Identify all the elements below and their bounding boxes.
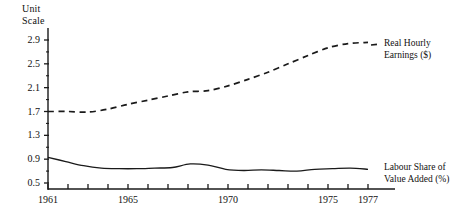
legend-label-labour-share: Labour Share of Value Added (%) — [384, 162, 449, 185]
y-tick-label: 2.1 — [14, 83, 40, 93]
x-tick-label: 1961 — [28, 195, 68, 205]
y-tick-label: 2.9 — [14, 35, 40, 45]
legend-dash-connector — [371, 44, 381, 45]
chart-figure: Unit Scale 0.50.91.31.72.12.52.9 1961196… — [0, 0, 469, 211]
x-axis-ticks — [48, 184, 368, 189]
y-tick-label: 0.5 — [14, 178, 40, 188]
x-tick-label: 1965 — [108, 195, 148, 205]
y-tick-label: 1.7 — [14, 107, 40, 117]
legend-label-real-hourly-earnings: Real Hourly Earnings ($) — [384, 38, 431, 61]
x-tick-label: 1977 — [348, 195, 388, 205]
series-line-labour-share — [48, 157, 368, 171]
y-axis-title: Unit Scale — [22, 3, 45, 27]
y-tick-label: 2.5 — [14, 59, 40, 69]
axis-lines — [48, 28, 395, 190]
series-line-real-hourly-earnings — [48, 42, 368, 112]
y-tick-label: 0.9 — [14, 154, 40, 164]
x-tick-label: 1970 — [208, 195, 248, 205]
y-tick-label: 1.3 — [14, 130, 40, 140]
x-tick-label: 1975 — [308, 195, 348, 205]
